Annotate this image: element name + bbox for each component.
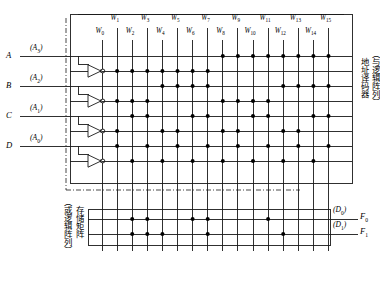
word-line-label-W3: W3 [141,15,150,24]
and-dot-A3bar-W4 [160,69,164,73]
inverter-A1 [88,125,101,137]
input-label-D: D [6,141,12,150]
and-dot-A3bar-W3 [145,69,149,73]
and-dot-A3-W10 [251,54,255,58]
and-dot-A0-W7 [206,144,210,148]
input-label-C: C [6,111,12,120]
and-dot-A2-W5 [176,84,180,88]
and-dot-A2bar-W2 [130,99,134,103]
or-array-note: （或逻辑阵列） [60,198,71,254]
output-label-F1: F1 [360,228,368,238]
and-dot-A1-W6 [191,114,195,118]
and-dot-A3-W15 [327,54,331,58]
and-dot-A0-W13 [296,144,300,148]
and-dot-A2-W13 [296,84,300,88]
and-dot-A2bar-W11 [266,99,270,103]
and-dot-A0bar-W2 [130,159,134,163]
and-dot-A1bar-W4 [160,129,164,133]
and-dot-A3bar-W1 [115,69,119,73]
and-dot-A0bar-W10 [251,159,255,163]
or-dot-F1-W3 [145,232,149,236]
inverter-A3 [88,65,101,77]
input-alias-A1: (A1) [30,104,42,114]
and-dot-A1-W10 [251,114,255,118]
or-dot-F1-W4 [160,232,164,236]
or-dot-F0-W3 [145,217,149,221]
word-line-label-W1: W1 [111,15,120,24]
and-array-box [70,14,352,183]
input-label-A: A [6,51,11,60]
word-line-label-W10: W10 [245,28,256,37]
and-dot-A2-W15 [327,84,331,88]
and-dot-A3bar-W2 [130,69,134,73]
and-dot-A1-W11 [266,114,270,118]
or-dot-F1-W12 [281,232,285,236]
or-dot-F0-W2 [130,217,134,221]
and-dot-A1bar-W5 [176,129,180,133]
word-line-label-W6: W6 [186,28,195,37]
input-alias-A3: (A3) [30,44,42,54]
and-dot-A2-W7 [206,84,210,88]
and-dot-A3bar-W7 [206,69,210,73]
word-line-label-W12: W12 [275,28,286,37]
prom-diagram: W0W1W2W3W4W5W6W7W8W9W10W11W12W13W14W15A(… [0,0,380,281]
and-dot-A3bar-W6 [191,69,195,73]
and-dot-A0-W5 [176,144,180,148]
and-dot-A1-W7 [206,114,210,118]
word-line-label-W9: W9 [231,15,240,24]
word-line-label-W11: W11 [260,15,271,24]
and-dot-A3-W9 [236,54,240,58]
inverter-A2 [88,95,101,107]
output-label-F0: F0 [360,213,368,223]
input-alias-A0: (A0) [30,134,42,144]
or-dot-F0-W7 [206,217,210,221]
and-dot-A1-W2 [130,114,134,118]
or-dot-F0-W6 [191,217,195,221]
word-line-label-W14: W14 [305,28,316,37]
and-dot-A2-W14 [311,84,315,88]
and-dot-A2-W4 [160,84,164,88]
or-dot-F1-W7 [206,232,210,236]
and-dot-A0-W15 [327,144,331,148]
and-array-caption: 地址译码器 [357,58,368,98]
word-line-label-W7: W7 [201,15,210,24]
or-array-box [88,209,330,245]
and-dot-A2bar-W8 [221,99,225,103]
inverter-A0 [88,155,101,167]
and-dot-A1-W3 [145,114,149,118]
and-dot-A0-W3 [145,144,149,148]
and-dot-A0bar-W4 [160,159,164,163]
and-dot-A2bar-W9 [236,99,240,103]
output-alias-D1: (D1) [333,221,346,231]
and-dot-A2bar-W3 [145,99,149,103]
or-array-caption: 存储矩阵 [72,206,83,238]
and-dot-A1-W14 [311,114,315,118]
and-dot-A2bar-W1 [115,99,119,103]
and-dot-A0-W11 [266,144,270,148]
diagram-canvas [0,0,380,281]
and-dot-A1bar-W12 [281,129,285,133]
word-line-label-W2: W2 [126,28,135,37]
and-dot-A0-W9 [236,144,240,148]
and-dot-A0bar-W12 [281,159,285,163]
and-dot-A0bar-W14 [311,159,315,163]
and-dot-A3-W11 [266,54,270,58]
output-alias-D0: (D0) [333,206,346,216]
and-dot-A0bar-W8 [221,159,225,163]
and-dot-A3-W8 [221,54,225,58]
and-dot-A3-W13 [296,54,300,58]
word-line-label-W0: W0 [96,28,105,37]
input-alias-A2: (A2) [30,74,42,84]
word-line-label-W13: W13 [290,15,301,24]
and-dot-A1bar-W9 [236,129,240,133]
and-dot-A1bar-W1 [115,129,119,133]
and-dot-A3-W12 [281,54,285,58]
and-dot-A3bar-W5 [176,69,180,73]
or-dot-F1-W2 [130,232,134,236]
input-label-B: B [6,81,11,90]
and-dot-A1bar-W8 [221,129,225,133]
word-line-label-W5: W5 [171,15,180,24]
word-line-label-W8: W8 [216,28,225,37]
or-dot-F0-W11 [266,217,270,221]
and-dot-A2bar-W10 [251,99,255,103]
